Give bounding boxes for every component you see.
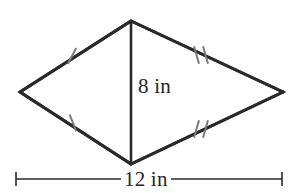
tick-bottom-right bbox=[194, 120, 208, 137]
height-label: 8 in bbox=[138, 75, 171, 97]
kite-diagram: 8 in 12 in bbox=[0, 0, 303, 193]
bottom-right-edge bbox=[131, 92, 283, 164]
top-left-edge bbox=[20, 21, 131, 92]
tick-bottom-left bbox=[70, 115, 77, 132]
width-label: 12 in bbox=[121, 168, 171, 190]
